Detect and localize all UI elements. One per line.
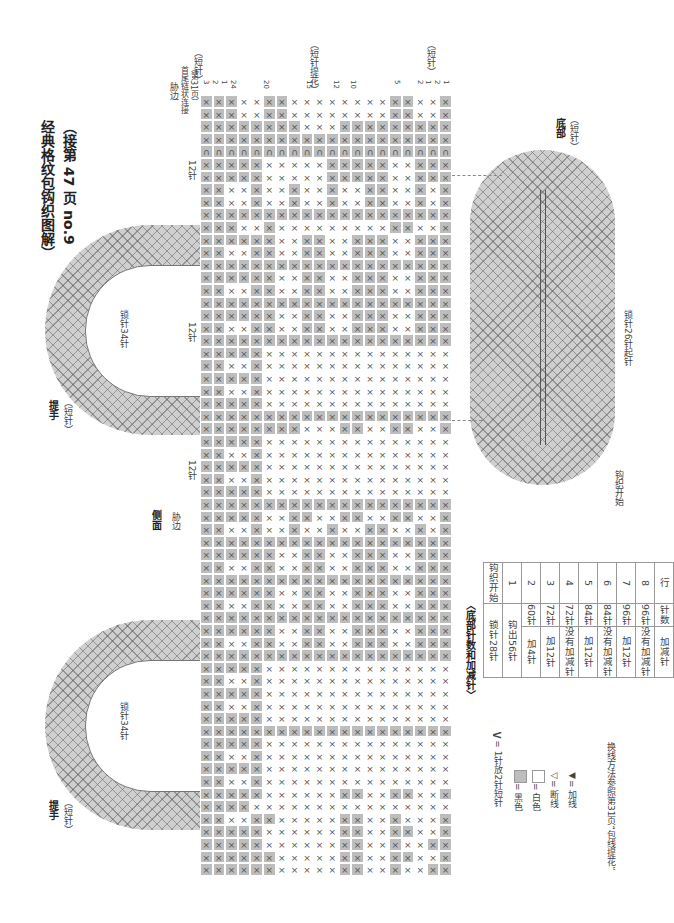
stitch-cell: × xyxy=(263,687,276,700)
stitch-cell: × xyxy=(225,548,238,561)
stitch-cell: × xyxy=(402,586,415,599)
stitch-cell: × xyxy=(313,561,326,574)
stitch-cell: × xyxy=(213,624,226,637)
table-row: 钩织开始锁针28针 xyxy=(484,563,503,678)
stitch-cell: × xyxy=(250,347,263,360)
stitch-cell: × xyxy=(213,498,226,511)
stitch-cell: × xyxy=(200,485,213,498)
table-cell: 8 xyxy=(636,563,655,604)
stitch-cell: × xyxy=(313,246,326,259)
stitch-cell: × xyxy=(288,586,301,599)
stitch-cell: × xyxy=(313,196,326,209)
stitch-cell: × xyxy=(200,435,213,448)
stitch-cell: × xyxy=(402,662,415,675)
stitch-cell: × xyxy=(263,762,276,775)
stitch-cell: × xyxy=(200,108,213,121)
stitch-cell: × xyxy=(301,259,314,272)
stitch-cell: × xyxy=(301,271,314,284)
stitch-cell: × xyxy=(225,851,238,864)
stitch-cell: × xyxy=(238,574,251,587)
stitch-cell: × xyxy=(288,397,301,410)
stitch-cell: × xyxy=(339,674,352,687)
table-header-cell: 针数 xyxy=(655,604,674,627)
stitch-cell: × xyxy=(376,422,389,435)
stitch-cell: × xyxy=(326,448,339,461)
stitch-cell: × xyxy=(376,561,389,574)
stitch-cell: × xyxy=(225,561,238,574)
stitch-cell: × xyxy=(376,297,389,310)
stitch-cell: × xyxy=(313,221,326,234)
stitch-cell: × xyxy=(389,548,402,561)
stitch-cell: × xyxy=(250,523,263,536)
stitch-cell: × xyxy=(250,800,263,813)
stitch-cell: × xyxy=(402,599,415,612)
stitch-cell: × xyxy=(213,120,226,133)
stitch-cell: × xyxy=(351,725,364,738)
stitch-cell: × xyxy=(288,234,301,247)
stitch-cell: × xyxy=(326,800,339,813)
stitch-cell: × xyxy=(225,246,238,259)
stitch-cell: × xyxy=(427,297,440,310)
stitch-cell: × xyxy=(225,448,238,461)
stitch-cell: × xyxy=(313,599,326,612)
stitch-cell: × xyxy=(200,208,213,221)
stitch-cell: × xyxy=(414,863,427,876)
stitch-cell: × xyxy=(439,624,452,637)
stitch-cell: × xyxy=(439,737,452,750)
stitch-cell: × xyxy=(351,234,364,247)
stitch-cell: × xyxy=(301,359,314,372)
stitch-cell: × xyxy=(301,183,314,196)
table-cell: 加12针 xyxy=(579,627,598,678)
stitch-cell: × xyxy=(376,813,389,826)
stitch-cell: × xyxy=(427,485,440,498)
stitch-cell: × xyxy=(326,838,339,851)
stitch-cell: × xyxy=(288,322,301,335)
stitch-cell: × xyxy=(238,775,251,788)
legend-increase: ∨= 1针放2针短针 xyxy=(490,730,506,807)
stitch-cell: × xyxy=(376,485,389,498)
stitch-cell: × xyxy=(376,498,389,511)
stitch-cell: × xyxy=(276,624,289,637)
stitch-cell: × xyxy=(339,410,352,423)
stitch-cell: × xyxy=(364,322,377,335)
stitch-cell: × xyxy=(225,687,238,700)
stitch-cell: × xyxy=(250,448,263,461)
stitch-cell: × xyxy=(276,234,289,247)
stitch-cell: × xyxy=(288,309,301,322)
stitch-cell: × xyxy=(263,208,276,221)
stitch-cell: × xyxy=(263,813,276,826)
stitch-cell: × xyxy=(238,523,251,536)
stitch-cell: ∩ xyxy=(402,145,415,158)
stitch-cell: × xyxy=(351,309,364,322)
stitch-cell: × xyxy=(439,725,452,738)
stitch-cell: × xyxy=(389,385,402,398)
stitch-cell: × xyxy=(402,259,415,272)
stitch-cell: × xyxy=(250,234,263,247)
stitch-cell: × xyxy=(276,410,289,423)
stitch-cell: × xyxy=(250,762,263,775)
stitch-cell: × xyxy=(301,133,314,146)
stitch-cell: × xyxy=(439,599,452,612)
stitch-cell: × xyxy=(200,158,213,171)
table-title: 〈底部针数和加减针〉 xyxy=(462,600,477,700)
stitch-cell: × xyxy=(288,485,301,498)
stitch-cell: × xyxy=(263,158,276,171)
stitch-cell: × xyxy=(402,700,415,713)
stitch-cell: × xyxy=(288,611,301,624)
stitch-cell: × xyxy=(402,448,415,461)
stitch-cell: × xyxy=(339,762,352,775)
stitch-cell: × xyxy=(389,422,402,435)
stitch-cell: ∩ xyxy=(351,145,364,158)
stitch-cell: × xyxy=(288,838,301,851)
stitch-cell: × xyxy=(263,334,276,347)
stitch-cell: × xyxy=(402,511,415,524)
stitch-cell: × xyxy=(301,397,314,410)
table-cell: 2 xyxy=(522,563,541,604)
stitch-cell: × xyxy=(389,586,402,599)
stitch-cell: × xyxy=(339,95,352,108)
stitch-cell: × xyxy=(364,95,377,108)
stitch-cell: × xyxy=(288,712,301,725)
stitch-cell: × xyxy=(213,687,226,700)
white-swatch-icon xyxy=(532,770,545,783)
stitch-cell: × xyxy=(225,586,238,599)
